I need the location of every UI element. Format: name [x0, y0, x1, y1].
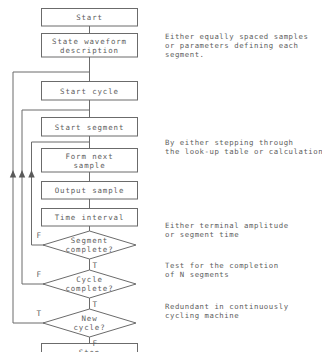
annotation-segment-line-1: or segment time	[165, 230, 239, 239]
annotation-state-line-2: segment.	[165, 50, 205, 59]
node-start-cycle-line-0: Start cycle	[60, 87, 119, 96]
node-time-interval[interactable]: Time interval	[42, 209, 138, 227]
node-new-cycle-line-0: New	[81, 314, 97, 323]
node-state-line-1: description	[60, 46, 119, 55]
arrowhead-feedback-segment	[28, 170, 34, 178]
annotation-new-cycle: Redundant in continuously cycling machin…	[165, 302, 289, 320]
branch-label-cycle-false: F	[36, 270, 41, 279]
annotation-cycle-complete: Test for the completion of N segments	[165, 261, 279, 279]
node-cycle-complete-line-0: Cycle	[76, 275, 103, 284]
arrowhead-feedback-cycle	[19, 170, 25, 178]
branch-label-cycle-true: T	[92, 300, 97, 309]
node-stop[interactable]: Stop	[42, 344, 138, 352]
node-start-segment[interactable]: Start segment	[42, 118, 138, 137]
node-form-next-line-1: sample	[73, 161, 105, 170]
node-cycle-complete-line-1: complete?	[65, 284, 113, 293]
node-form-next-sample[interactable]: Form next sample	[42, 149, 138, 173]
node-output-sample[interactable]: Output sample	[42, 182, 138, 200]
node-state-line-0: State waveform	[52, 37, 127, 46]
node-new-cycle-line-1: cycle?	[73, 323, 105, 332]
annotation-cycle-line-0: Test for the completion	[165, 261, 279, 270]
node-start-line-0: Start	[76, 13, 103, 22]
branch-label-newcycle-false: F	[92, 339, 97, 348]
annotation-form-line-1: the look-up table or calculation	[165, 147, 322, 156]
node-new-cycle-decision[interactable]: New cycle?	[43, 309, 136, 337]
arrowhead-feedback-newcycle	[10, 170, 16, 178]
node-form-next-line-0: Form next	[65, 152, 113, 161]
node-start-cycle[interactable]: Start cycle	[42, 82, 138, 101]
node-start[interactable]: Start	[42, 9, 138, 27]
node-segment-complete-decision[interactable]: Segment complete?	[43, 231, 136, 259]
branch-label-segment-false: F	[36, 231, 41, 240]
node-stop-line-0: Stop	[79, 348, 100, 352]
annotation-cycle-line-1: of N segments	[165, 270, 229, 279]
node-segment-complete-line-0: Segment	[71, 236, 108, 245]
branch-label-segment-true: T	[92, 261, 97, 270]
node-output-sample-line-0: Output sample	[55, 186, 125, 195]
node-time-interval-line-0: Time interval	[55, 213, 125, 222]
branch-label-newcycle-true: T	[36, 309, 41, 318]
annotation-segment-line-0: Either terminal amplitude	[165, 221, 289, 230]
flowchart-canvas: Start State waveform description Start c…	[0, 0, 322, 352]
annotation-state-line-0: Either equally spaced samples	[165, 32, 308, 41]
node-start-segment-line-0: Start segment	[55, 123, 125, 132]
annotation-new-line-0: Redundant in continuously	[165, 302, 289, 311]
annotation-new-line-1: cycling machine	[165, 311, 239, 320]
annotation-state-line-1: or parameters defining each	[165, 41, 298, 50]
annotation-segment-complete: Either terminal amplitude or segment tim…	[165, 221, 289, 239]
node-segment-complete-line-1: complete?	[65, 245, 113, 254]
annotation-form-line-0: By either stepping through	[165, 138, 294, 147]
node-state-waveform-description[interactable]: State waveform description	[42, 34, 138, 58]
node-cycle-complete-decision[interactable]: Cycle complete?	[43, 270, 136, 298]
annotation-form-next-sample: By either stepping through the look-up t…	[165, 138, 322, 156]
annotation-state-waveform: Either equally spaced samples or paramet…	[165, 32, 308, 59]
